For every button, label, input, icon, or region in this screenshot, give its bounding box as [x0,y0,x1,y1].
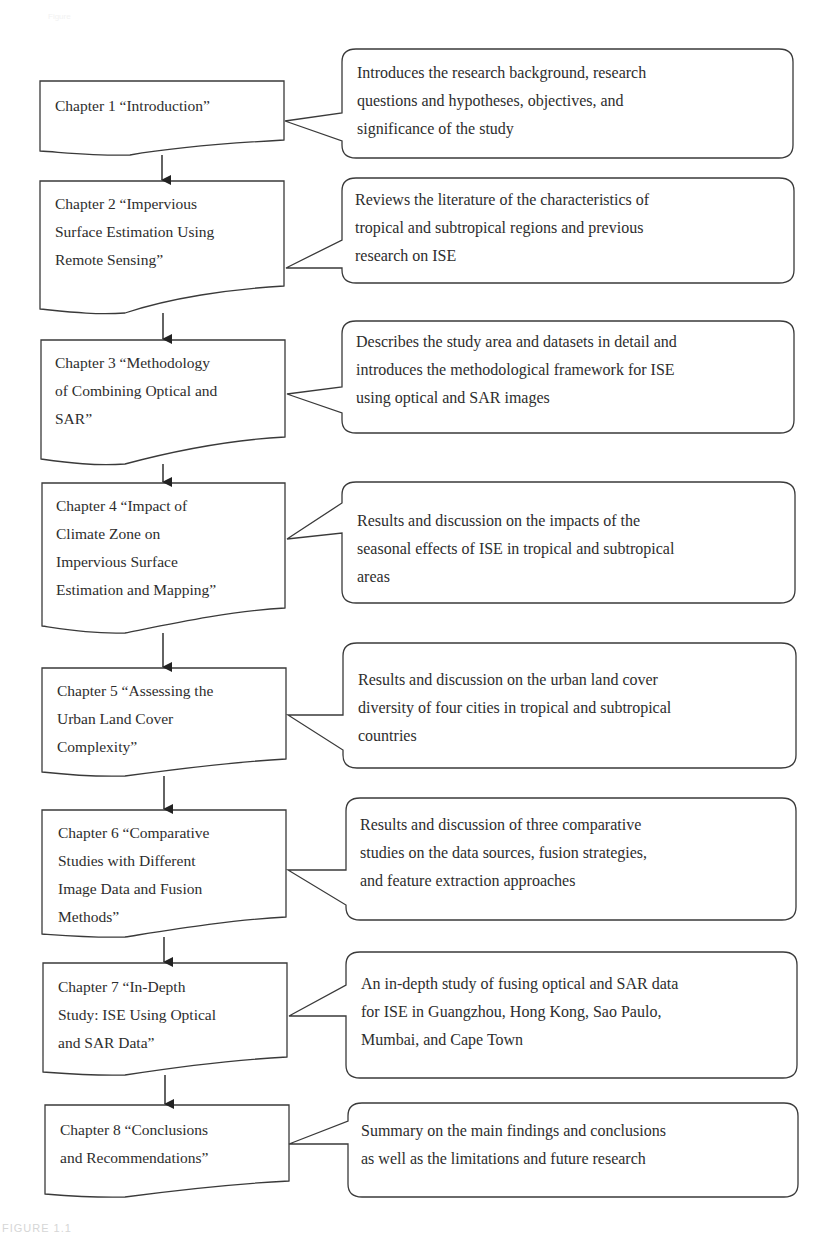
chapter-8-title: Chapter 8 “Conclusions and Recommendatio… [60,1116,209,1172]
chapter-3-title: Chapter 3 “Methodology of Combining Opti… [55,349,217,433]
desc-3-text: Describes the study area and datasets in… [356,328,677,412]
chapter-4-title: Chapter 4 “Impact of Climate Zone on Imp… [56,492,216,604]
desc-6-text: Results and discussion of three comparat… [360,811,647,895]
desc-4-text: Results and discussion on the impacts of… [357,507,674,591]
desc-5-text: Results and discussion on the urban land… [358,666,671,750]
chapter-5-title: Chapter 5 “Assessing the Urban Land Cove… [57,677,213,761]
chapter-7-title: Chapter 7 “In-Depth Study: ISE Using Opt… [58,973,216,1057]
faint-header-label: Figure [48,12,71,21]
figure-caption: FIGURE 1.1 [2,1222,72,1234]
desc-2-text: Reviews the literature of the characteri… [355,186,649,270]
chapter-6-title: Chapter 6 “Comparative Studies with Diff… [58,819,210,931]
desc-8-text: Summary on the main findings and conclus… [361,1117,666,1173]
chapter-1-title: Chapter 1 “Introduction” [55,92,210,120]
desc-1-text: Introduces the research background, rese… [357,59,646,143]
chapter-2-title: Chapter 2 “Impervious Surface Estimation… [55,190,214,274]
desc-7-text: An in-depth study of fusing optical and … [361,970,678,1054]
